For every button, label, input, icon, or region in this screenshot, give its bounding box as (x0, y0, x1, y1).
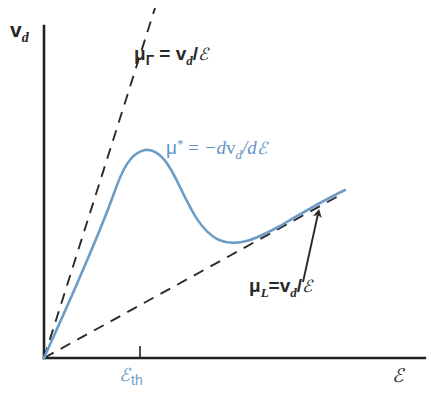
longitudinal-velocity-symbol: v (280, 275, 291, 296)
plot-svg (0, 0, 431, 403)
y-axis-label-main: v (10, 18, 22, 41)
longitudinal-mu-symbol: μ (249, 275, 261, 296)
x-axis-label: ℰ (392, 366, 404, 385)
longitudinal-script-e: ℰ (302, 276, 312, 296)
gamma-subscript: Γ (146, 52, 154, 68)
differential-mobility-label: μ* = −dvd/dℰ (166, 137, 267, 161)
drift-velocity-curve (44, 150, 345, 358)
longitudinal-equals: = (269, 275, 280, 296)
longitudinal-mobility-label: μL=vd/ℰ (249, 276, 312, 299)
mustar-star: * (177, 136, 184, 151)
mustar-mu-symbol: μ (166, 137, 177, 158)
gamma-mu-symbol: μ (134, 43, 146, 64)
pointer-arrow (303, 214, 318, 282)
mustar-minus-d: −d (204, 137, 226, 158)
y-axis-label: vd (10, 19, 29, 45)
figure-canvas: vd μΓ = vd/ℰ μ* = −dvd/dℰ μL=vd/ℰ ℰth ℰ (0, 0, 431, 403)
y-axis-label-subscript: d (22, 30, 29, 45)
threshold-script-e: ℰ (119, 364, 130, 385)
gamma-mobility-label: μΓ = vd/ℰ (134, 44, 208, 67)
mustar-velocity-symbol: v (226, 137, 236, 158)
gamma-script-e: ℰ (198, 44, 208, 64)
mustar-equals: = (188, 137, 199, 158)
gamma-velocity-symbol: v (176, 43, 187, 64)
threshold-field-label: ℰth (119, 366, 143, 387)
gamma-equals: = (159, 43, 170, 64)
threshold-subscript: th (131, 372, 143, 388)
mustar-script-e: ℰ (257, 138, 267, 158)
longitudinal-subscript: L (261, 285, 269, 300)
mustar-d: d (247, 137, 257, 158)
